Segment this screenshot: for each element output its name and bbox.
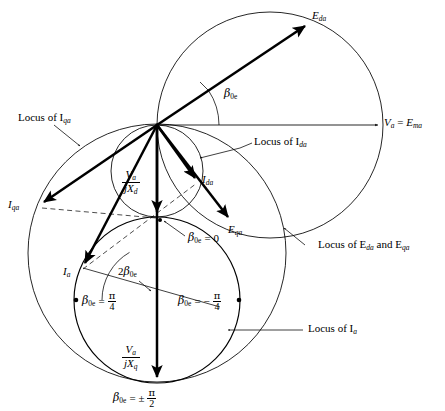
leader-locus-ida-stub — [240, 143, 252, 148]
va-over-jxq-numerator: Va — [122, 344, 140, 358]
leader-locus-ida — [200, 148, 240, 158]
locus-ida-subscript: da — [299, 140, 307, 149]
leader-locus-iqa — [54, 125, 80, 146]
ia-subscript: a — [67, 270, 71, 279]
pi-over-2-denominator: 2 — [147, 399, 156, 409]
phasor-locus-figure: Locus of Iqa Locus of Ida Locus of Eda a… — [0, 0, 445, 411]
ema-subscript: ma — [413, 121, 422, 130]
beta-negpi4-subscript: 0e — [184, 299, 191, 308]
locus-eda-eqa-text-1: Locus of E — [318, 238, 366, 250]
beta-equals-pi-over-4-label: β0e = π 4 — [82, 291, 116, 312]
va-symbol: V — [384, 116, 391, 128]
vector-ia — [85, 125, 157, 263]
beta-pmpi2-subscript: 0e — [119, 396, 126, 405]
beta-pmpi2-lhs: β0e — [113, 392, 126, 405]
diagram-canvas — [0, 0, 445, 411]
eda-subscript: da — [319, 14, 327, 23]
beta-zero-subscript: 0e — [194, 236, 201, 245]
eqa-subscript: qa — [235, 228, 243, 237]
beta-equals-neg-pi-over-4-label: β0e = − π 4 — [178, 291, 221, 312]
va-over-jxd-label: Va jXd — [122, 169, 140, 195]
eda-symbol: E — [312, 9, 319, 21]
marker-beta-zero — [158, 218, 162, 222]
beta-equals-pm-pi-over-2-label: β0e = ± π 2 — [113, 388, 156, 409]
va-over-jxd-denominator: jXd — [122, 183, 140, 196]
ida-label: Ida — [202, 174, 213, 187]
two-beta-subscript: 0e — [130, 270, 137, 279]
ia-label: Ia — [63, 266, 70, 279]
va-over-jxd-fraction: Va jXd — [122, 169, 140, 195]
beta-pmpi2-equals: = ± — [129, 393, 144, 405]
vector-eda — [157, 26, 305, 125]
locus-iqa-text: Locus of I — [18, 111, 63, 123]
neg-pi-over-4-denominator: 4 — [213, 302, 222, 312]
vector-iqa — [44, 125, 157, 202]
marker-beta-neg-pi-4 — [237, 298, 242, 303]
va-over-jxd-numerator: Va — [122, 169, 140, 183]
leader-beta-zero — [164, 221, 185, 236]
va-over-jxq-label: Va jXq — [122, 344, 140, 370]
locus-iqa-label: Locus of Iqa — [18, 112, 71, 125]
two-beta-0e-label: 2β0e — [118, 266, 137, 279]
dashed-ia-to-ida — [83, 183, 197, 269]
pi-over-2-fraction: π 2 — [147, 388, 156, 409]
locus-ia-label: Locus of Ia — [308, 323, 357, 336]
beta-zero-lhs: β0e — [188, 232, 201, 245]
ida-subscript: da — [206, 178, 214, 187]
beta-equals-zero-label: β0e = 0 — [188, 232, 219, 245]
beta-zero-rhs: = 0 — [204, 233, 218, 245]
beta-pi4-lhs: β0e — [82, 295, 95, 308]
beta-0e-angle-label: β0e — [224, 88, 237, 101]
eqa-symbol: E — [228, 223, 235, 235]
eda-label: Eda — [312, 10, 326, 23]
va-ema-label: Va = Ema — [384, 117, 422, 130]
va-ema-equals: = — [394, 116, 406, 128]
va-over-jxq-x: X — [127, 357, 134, 369]
va-over-jxd-x: X — [127, 182, 134, 194]
locus-ia-text: Locus of I — [308, 322, 353, 334]
locus-ida-label: Locus of Ida — [254, 136, 307, 149]
beta-pi4-subscript: 0e — [88, 299, 95, 308]
beta-subscript: 0e — [230, 92, 237, 101]
ema-symbol: E — [406, 116, 413, 128]
arc-tip-beta0e — [200, 82, 209, 91]
locus-ia-subscript: a — [353, 327, 357, 336]
marker-origin — [155, 123, 158, 126]
va-over-jxq-denominator: jXq — [122, 358, 140, 371]
beta-negpi4-equals: = − — [194, 296, 209, 308]
va-over-jxq-fraction: Va jXq — [122, 344, 140, 370]
va-over-jxq-x-subscript: q — [134, 362, 138, 371]
beta-negpi4-lhs: β0e — [178, 295, 191, 308]
iqa-subscript: qa — [12, 203, 20, 212]
locus-eda-eqa-subscript-1: da — [366, 243, 374, 252]
locus-ida-text: Locus of I — [254, 135, 299, 147]
iqa-label: Iqa — [8, 199, 19, 212]
locus-eda-eqa-label: Locus of Eda and Eqa — [318, 239, 409, 252]
marker-beta-pi-4 — [74, 298, 79, 303]
locus-eda-eqa-subscript-2: qa — [402, 243, 410, 252]
locus-eda-eqa-text-2: and E — [374, 238, 402, 250]
locus-iqa-subscript: qa — [63, 116, 71, 125]
arc-beta0e-eda — [209, 91, 220, 126]
eqa-label: Eqa — [228, 224, 242, 237]
beta-pi4-equals: = — [98, 296, 104, 308]
pi-over-4-denominator: 4 — [108, 302, 117, 312]
phasor-vectors — [44, 26, 305, 377]
neg-pi-over-4-fraction: π 4 — [213, 291, 222, 312]
pi-over-4-fraction: π 4 — [108, 291, 117, 312]
va-over-jxd-x-subscript: d — [134, 187, 138, 196]
